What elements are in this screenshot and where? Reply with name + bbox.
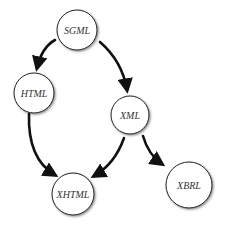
diagram-canvas: SGML HTML XML XHTML XBRL: [0, 0, 225, 226]
node-label-xml: XML: [119, 110, 140, 121]
edge-html-xhtml: [29, 114, 55, 175]
edge-xml-xbrl: [143, 136, 162, 164]
edge-sgml-xml: [100, 42, 127, 90]
node-label-html: HTML: [20, 88, 48, 99]
edge-xml-xhtml: [94, 138, 124, 176]
node-xhtml: XHTML: [52, 173, 94, 215]
edge-sgml-html: [37, 40, 55, 68]
node-html: HTML: [14, 73, 54, 113]
node-xml: XML: [111, 96, 149, 134]
node-label-sgml: SGML: [64, 25, 91, 36]
node-label-xbrl: XBRL: [176, 180, 201, 191]
node-xbrl: XBRL: [166, 162, 212, 208]
node-label-xhtml: XHTML: [56, 189, 90, 200]
node-sgml: SGML: [57, 10, 97, 50]
graph-svg: SGML HTML XML XHTML XBRL: [0, 0, 225, 226]
